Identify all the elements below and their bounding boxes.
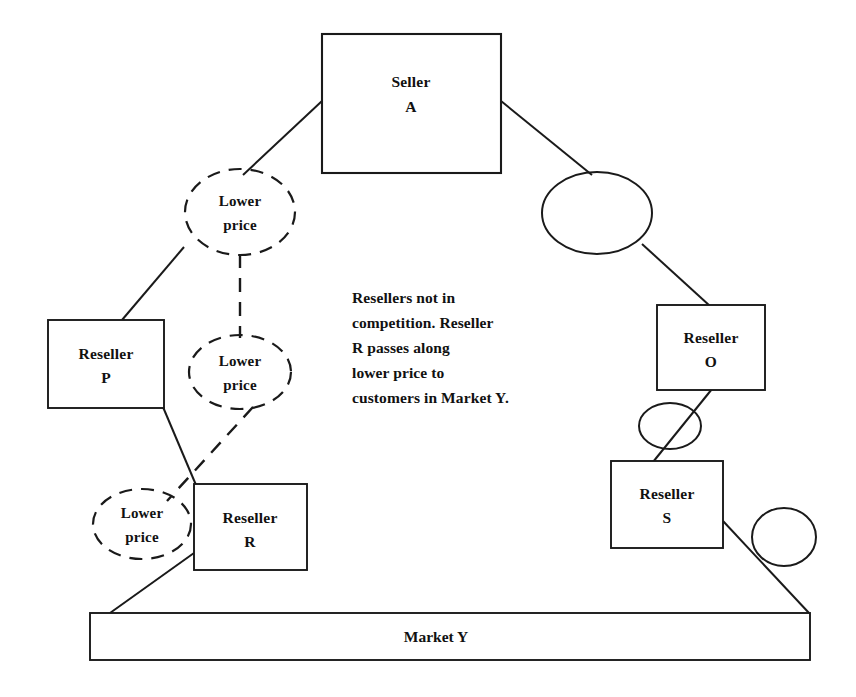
- note-line-5: customers in Market Y.: [352, 389, 509, 406]
- seller-a-label-line1: Seller: [391, 73, 430, 90]
- link-blank-ellipse-top-right-to-reseller-o: [642, 244, 710, 306]
- reseller-r-label-line1: Reseller: [223, 509, 278, 526]
- lower-price-ellipse-top: [185, 169, 295, 255]
- note-line-3: R passes along: [352, 339, 450, 356]
- reseller-p-label-line1: Reseller: [79, 345, 134, 362]
- note-line-1: Resellers not in: [352, 289, 455, 306]
- lower-price-top-label-line2: price: [223, 217, 257, 233]
- reseller-o-label-line2: O: [705, 353, 717, 370]
- lower-price-top-label-line1: Lower: [219, 193, 262, 209]
- reseller-o-label-line1: Reseller: [684, 329, 739, 346]
- lower-price-ellipse-middle: [189, 335, 291, 409]
- link-reseller-p-to-reseller-r: [163, 407, 196, 485]
- blank-ellipse-top-right: [542, 172, 652, 254]
- lower-price-middle-label-line1: Lower: [219, 353, 262, 369]
- market-y-label: Market Y: [404, 628, 468, 645]
- lower-price-middle-label-line2: price: [223, 377, 257, 393]
- link-reseller-o-to-reseller-s: [653, 389, 712, 462]
- reseller-p-box: [48, 320, 164, 408]
- lower-price-bottom-label-line2: price: [125, 529, 159, 545]
- diagram-canvas: Seller A Reseller P Reseller R Reseller …: [0, 0, 856, 697]
- lower-price-bottom-label-line1: Lower: [121, 505, 164, 521]
- link-seller-a-to-blank-ellipse-top-right: [501, 101, 592, 175]
- reseller-p-label-line2: P: [101, 369, 111, 386]
- diagram-svg: Seller A Reseller P Reseller R Reseller …: [0, 0, 856, 697]
- link-seller-a-to-lower-price-top: [243, 101, 322, 175]
- reseller-s-box: [611, 461, 723, 548]
- reseller-r-box: [194, 484, 307, 570]
- reseller-o-box: [657, 305, 765, 390]
- lower-price-ellipse-bottom: [93, 489, 191, 559]
- reseller-s-label-line2: S: [663, 509, 672, 526]
- reseller-r-label-line2: R: [244, 533, 256, 550]
- reseller-s-label-line1: Reseller: [640, 485, 695, 502]
- link-lower-price-top-to-reseller-p: [122, 247, 184, 320]
- link-reseller-r-to-market-y: [110, 553, 194, 613]
- link-reseller-s-to-market-y: [723, 521, 809, 613]
- blank-ellipse-right-of-s: [752, 508, 816, 566]
- note-line-4: lower price to: [352, 364, 445, 381]
- seller-a-label-line2: A: [405, 98, 417, 115]
- note-line-2: competition. Reseller: [352, 314, 494, 331]
- note-block: Resellers not in competition. Reseller R…: [352, 289, 509, 406]
